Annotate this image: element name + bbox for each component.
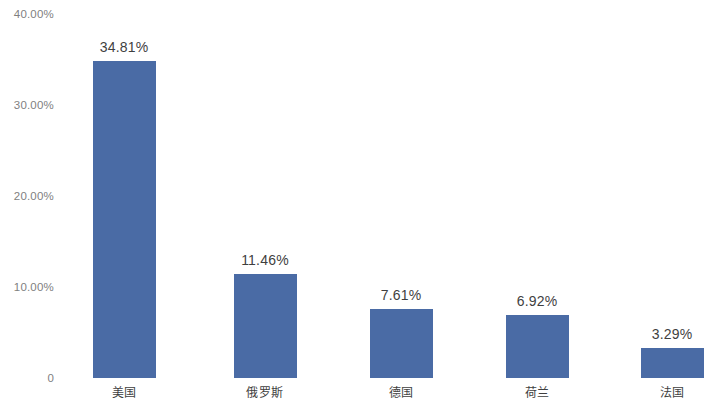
- x-tick-label: 俄罗斯: [246, 383, 284, 400]
- x-tick-label: 法国: [660, 383, 685, 400]
- bar[interactable]: [93, 61, 156, 378]
- bar[interactable]: [234, 274, 297, 378]
- bar[interactable]: [370, 309, 433, 378]
- x-tick-label: 美国: [112, 383, 137, 400]
- x-tick-label: 荷兰: [525, 383, 550, 400]
- bar-value-label: 7.61%: [381, 287, 422, 303]
- x-tick-label: 德国: [389, 383, 414, 400]
- bar-value-label: 11.46%: [241, 252, 289, 268]
- bar[interactable]: [641, 348, 704, 378]
- bar[interactable]: [506, 315, 569, 378]
- bar-value-label: 34.81%: [100, 39, 149, 55]
- bar-value-label: 6.92%: [517, 293, 558, 309]
- bar-value-label: 3.29%: [652, 326, 693, 342]
